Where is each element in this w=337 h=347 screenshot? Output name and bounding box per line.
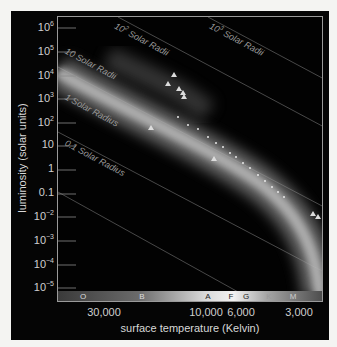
- ytick-label: 10: [42, 138, 54, 150]
- spectral-bar: [58, 291, 323, 302]
- ytick-label: 10−3: [34, 233, 54, 246]
- ytick-label: 10−4: [34, 257, 54, 270]
- xtick-label: 3,000: [285, 306, 313, 318]
- ytick-label: 106: [38, 20, 54, 33]
- ytick-label: 1: [48, 162, 54, 174]
- spectral-class-M: M: [290, 292, 297, 301]
- spectral-class-O: O: [80, 292, 86, 301]
- spectral-class-K: K: [266, 292, 271, 301]
- ytick-label: 10−5: [34, 280, 54, 293]
- y-axis-label: luminosity (solar units): [16, 103, 28, 212]
- spectral-class-G: G: [243, 292, 249, 301]
- ytick-label: 0.1: [39, 186, 54, 198]
- ytick-label: 103: [38, 91, 54, 104]
- xtick-label: 6,000: [227, 306, 255, 318]
- spectral-class-A: A: [205, 292, 210, 301]
- spectral-class-B: B: [139, 292, 144, 301]
- ytick-label: 104: [38, 68, 54, 81]
- ytick-label: 10−2: [34, 209, 54, 222]
- xtick-label: 10,000: [189, 306, 223, 318]
- ytick-label: 102: [38, 115, 54, 128]
- ytick-label: 105: [38, 44, 54, 57]
- x-axis-label: surface temperature (Kelvin): [121, 322, 260, 334]
- spectral-class-F: F: [229, 292, 234, 301]
- xtick-label: 30,000: [87, 306, 121, 318]
